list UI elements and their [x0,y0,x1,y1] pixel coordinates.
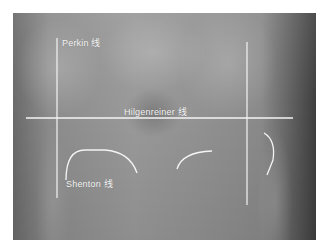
shenton-arc-right-obturator [177,151,212,169]
hilgenreiner-line-label: Hilgenreiner 线 [124,105,187,118]
shenton-line-label: Shenton 线 [66,177,113,190]
shenton-arc-right-femoral [264,133,274,175]
annotation-overlay [0,0,328,250]
perkin-line-label: Perkin 线 [62,36,101,49]
shenton-arc-left-femoral [66,150,137,180]
